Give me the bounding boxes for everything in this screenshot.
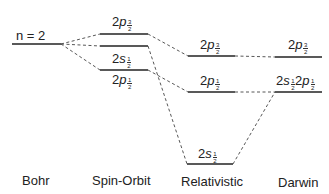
label-darwin-2s12-2p12: 2s122p12 [276, 74, 315, 91]
label-rel-2p12: 2p12 [200, 74, 220, 91]
connector-lines [61, 34, 275, 164]
label-so-2p12: 2p12 [112, 73, 132, 90]
column-label-bohr: Bohr [22, 174, 49, 187]
label-rel-2p32: 2p32 [200, 38, 220, 55]
bohr-level-label: n = 2 [16, 29, 45, 42]
label-darwin-2p32: 2p32 [288, 38, 308, 55]
label-so-2s12: 2s12 [112, 52, 131, 69]
label-rel-2s12: 2s12 [198, 147, 217, 164]
column-label-darwin: Darwin [278, 176, 318, 189]
column-label-spin-orbit: Spin-Orbit [92, 174, 151, 187]
energy-levels [12, 34, 322, 164]
column-label-relativistic: Relativistic [181, 175, 243, 188]
label-so-2p32: 2p32 [112, 15, 132, 32]
energy-level-diagram [0, 0, 329, 194]
